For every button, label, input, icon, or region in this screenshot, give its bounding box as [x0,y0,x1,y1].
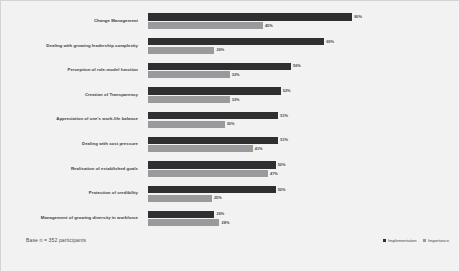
bar-importance[interactable] [148,71,230,78]
legend-item-importance[interactable]: Importance [423,238,449,243]
bar-importance[interactable] [148,219,219,226]
base-note: Base n = 352 participants [26,237,86,243]
bar-row: 26% [148,47,455,54]
bar-importance[interactable] [148,195,212,202]
bar-value-label: 41% [255,147,263,151]
bar-value-label: 26% [216,212,224,216]
category-label: Appreciation of one's work-life balance [1,108,143,133]
category-label: Protection of credibility [1,182,143,207]
bar-row: 32% [148,71,455,78]
category-label: Creation of Transparency [1,83,143,108]
category-label: Realisation of established goals [1,157,143,182]
chart-legend: Implementation Importance [383,238,449,243]
category-label: Change Management [1,9,143,34]
bar-row: 32% [148,96,455,103]
bar-row: 26% [148,211,455,218]
bars-wrapper: 51%41% [148,132,455,157]
bar-group: Dealing with cost pressure51%41% [1,132,460,157]
legend-label-importance: Importance [428,238,449,243]
bar-importance[interactable] [148,96,230,103]
chart-container: Change Management80%45%Dealing with grow… [0,0,460,272]
category-label: Perception of role-model function [1,58,143,83]
bar-value-label: 30% [227,122,235,126]
bar-value-label: 69% [326,40,334,44]
bar-group: Dealing with growing leadership complexi… [1,34,460,59]
bar-row: 25% [148,195,455,202]
bar-implementation[interactable] [148,186,276,193]
category-label: Dealing with cost pressure [1,132,143,157]
bar-implementation[interactable] [148,38,324,45]
bar-row: 47% [148,170,455,177]
bar-implementation[interactable] [148,63,291,70]
bar-value-label: 50% [278,188,286,192]
bar-importance[interactable] [148,145,253,152]
bar-implementation[interactable] [148,112,278,119]
bar-group: Perception of role-model function56%32% [1,58,460,83]
bar-value-label: 25% [214,196,222,200]
bar-value-label: 52% [283,89,291,93]
bar-group: Creation of Transparency52%32% [1,83,460,108]
bar-row: 41% [148,145,455,152]
bar-value-label: 47% [270,172,278,176]
chart-footer: Base n = 352 participants Implementation… [1,231,460,271]
bar-value-label: 51% [280,138,288,142]
bar-value-label: 32% [232,98,240,102]
bar-value-label: 32% [232,73,240,77]
bars-wrapper: 80%45% [148,9,455,34]
bars-wrapper: 52%32% [148,83,455,108]
bar-group: Protection of credibility50%25% [1,182,460,207]
bar-value-label: 56% [293,64,301,68]
bar-group: Realisation of established goals50%47% [1,157,460,182]
bar-row: 50% [148,161,455,168]
bar-value-label: 28% [222,221,230,225]
category-label: Dealing with growing leadership complexi… [1,34,143,59]
bar-importance[interactable] [148,121,225,128]
bars-wrapper: 50%47% [148,157,455,182]
legend-swatch-implementation [383,239,386,242]
bar-implementation[interactable] [148,161,276,168]
bar-row: 28% [148,219,455,226]
bar-implementation[interactable] [148,87,281,94]
bar-row: 80% [148,13,455,20]
bar-row: 51% [148,137,455,144]
bar-importance[interactable] [148,22,263,29]
bar-value-label: 26% [216,48,224,52]
bar-row: 69% [148,38,455,45]
bar-row: 45% [148,22,455,29]
bar-group: Appreciation of one's work-life balance5… [1,108,460,133]
legend-item-implementation[interactable]: Implementation [383,238,417,243]
bars-wrapper: 26%28% [148,206,455,231]
bar-value-label: 51% [280,114,288,118]
bar-row: 56% [148,63,455,70]
bars-wrapper: 56%32% [148,58,455,83]
bar-row: 30% [148,121,455,128]
bar-implementation[interactable] [148,13,352,20]
bar-implementation[interactable] [148,137,278,144]
bar-row: 51% [148,112,455,119]
bar-chart-plot-area: Change Management80%45%Dealing with grow… [1,9,460,231]
bar-importance[interactable] [148,170,268,177]
bar-value-label: 50% [278,163,286,167]
bar-value-label: 45% [265,24,273,28]
legend-label-implementation: Implementation [388,238,417,243]
bars-wrapper: 69%26% [148,34,455,59]
legend-swatch-importance [423,239,426,242]
bar-importance[interactable] [148,47,214,54]
bar-row: 52% [148,87,455,94]
bar-group: Management of growing diversity in workf… [1,206,460,231]
category-label: Management of growing diversity in workf… [1,206,143,231]
bars-wrapper: 50%25% [148,182,455,207]
bar-value-label: 80% [354,15,362,19]
bar-group: Change Management80%45% [1,9,460,34]
bars-wrapper: 51%30% [148,108,455,133]
bar-implementation[interactable] [148,211,214,218]
bar-row: 50% [148,186,455,193]
